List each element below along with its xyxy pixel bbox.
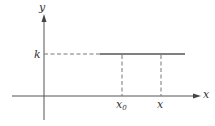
x-point-label: x [157,99,163,110]
x-axis-label: x [203,89,209,100]
x0-subscript: 0 [122,104,126,112]
graph-svg [0,0,215,126]
y-axis-arrow-icon [42,14,47,22]
x-axis-arrow-icon [193,94,201,99]
x0-label: x0 [116,99,127,112]
diagram-canvas: y k x x0 x [0,0,215,126]
y-axis-label: y [39,2,45,13]
k-level-label: k [34,49,41,60]
